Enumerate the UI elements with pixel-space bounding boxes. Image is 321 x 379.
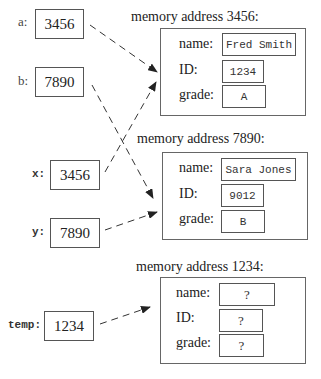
memory-address-title-3456: memory address 3456: <box>131 9 259 25</box>
arrow-temp <box>100 307 150 324</box>
field-label-id: ID: <box>179 62 198 78</box>
field-value-name: Fred Smith <box>222 33 296 56</box>
var-label-x: x: <box>32 168 45 180</box>
field-label-grade: grade: <box>179 211 214 227</box>
field-value-id: 1234 <box>222 60 264 83</box>
var-value-b: 7890 <box>45 74 75 91</box>
field-text: A <box>241 91 248 103</box>
field-value-id: ? <box>219 309 263 332</box>
var-box-temp: 1234 <box>44 311 94 341</box>
field-value-name: ? <box>219 283 275 306</box>
field-value-grade: A <box>222 85 266 108</box>
var-value-a: 3456 <box>45 16 75 33</box>
field-text: ? <box>239 338 245 354</box>
var-value-temp: 1234 <box>54 318 84 335</box>
var-label-a: a: <box>18 14 27 30</box>
field-text: Fred Smith <box>226 39 292 51</box>
arrow-a <box>90 25 157 72</box>
field-label-id: ID: <box>176 310 195 326</box>
field-text: Sara Jones <box>225 164 291 176</box>
var-value-x: 3456 <box>60 167 90 184</box>
field-label-grade: grade: <box>176 335 211 351</box>
var-value-y: 7890 <box>60 225 90 242</box>
var-box-x: 3456 <box>50 160 100 190</box>
field-label-grade: grade: <box>179 87 214 103</box>
var-box-b: 7890 <box>35 67 84 97</box>
arrow-x <box>105 82 156 172</box>
var-label-b: b: <box>18 73 28 89</box>
field-text: 1234 <box>230 66 256 78</box>
field-value-grade: ? <box>219 334 264 357</box>
var-box-a: 3456 <box>35 9 84 39</box>
var-label-temp: temp: <box>8 319 41 331</box>
field-label-name: name: <box>179 36 213 52</box>
field-text: B <box>240 216 247 228</box>
field-value-grade: B <box>221 210 265 233</box>
field-label-name: name: <box>179 160 213 176</box>
arrow-y <box>105 212 157 230</box>
field-text: ? <box>244 287 250 303</box>
memory-address-title-7890: memory address 7890: <box>137 131 265 147</box>
var-box-y: 7890 <box>50 218 100 248</box>
field-label-id: ID: <box>179 186 198 202</box>
memory-address-title-1234: memory address 1234: <box>136 259 264 275</box>
field-value-name: Sara Jones <box>221 158 296 181</box>
field-value-id: 9012 <box>221 184 264 207</box>
field-label-name: name: <box>176 285 210 301</box>
field-text: 9012 <box>229 190 255 202</box>
field-text: ? <box>238 313 244 329</box>
var-label-y: y: <box>32 226 45 238</box>
